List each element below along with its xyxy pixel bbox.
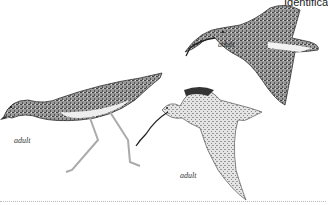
flying-curlew-center (136, 87, 262, 200)
dotted-divider (0, 201, 326, 202)
caption-flying-center: adult (180, 171, 196, 180)
caption-standing: adult (14, 136, 30, 145)
standing-curlew (0, 73, 162, 172)
caption-flying-upper: adult (218, 40, 234, 49)
